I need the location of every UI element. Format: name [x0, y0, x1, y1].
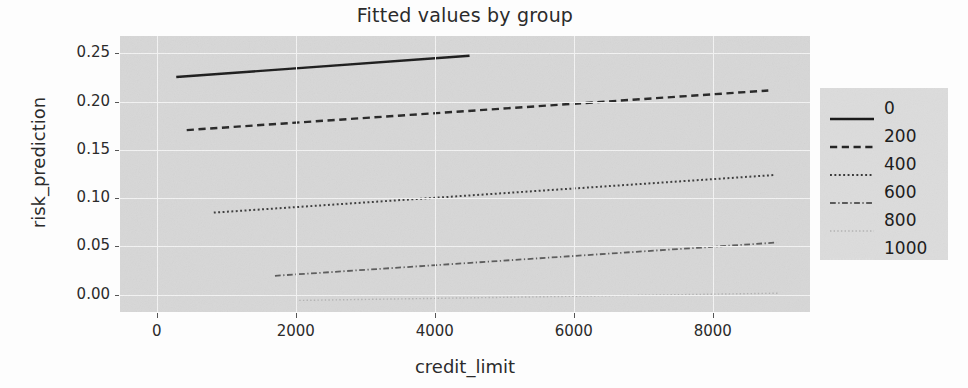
gridline-vertical	[157, 36, 158, 312]
legend-item-600[interactable]: 600	[820, 178, 948, 206]
gridline-vertical	[296, 36, 297, 312]
legend-item-800[interactable]: 800	[820, 206, 948, 234]
y-tick-mark	[115, 246, 119, 247]
y-tick-label: 0.25	[77, 43, 110, 61]
series-line-0	[176, 56, 469, 77]
legend-item-1000[interactable]: 1000	[820, 234, 948, 262]
gridline-horizontal	[120, 150, 810, 151]
legend-label-200: 200	[884, 126, 916, 146]
y-tick-mark	[115, 102, 119, 103]
gridline-vertical	[435, 36, 436, 312]
x-tick-mark	[157, 313, 158, 318]
plot-canvas	[120, 36, 810, 312]
legend-line-sample-800	[830, 219, 874, 222]
gridline-vertical	[713, 36, 714, 312]
legend-item-400[interactable]: 400	[820, 150, 948, 178]
legend-label-600: 600	[884, 182, 916, 202]
gridline-horizontal	[120, 53, 810, 54]
x-tick-label: 6000	[524, 322, 624, 340]
legend: 02004006008001000	[820, 88, 948, 260]
legend-line-sample-400	[830, 163, 874, 166]
x-tick-mark	[574, 313, 575, 318]
x-axis-label: credit_limit	[120, 356, 810, 377]
y-tick-label: 0.05	[77, 236, 110, 254]
y-tick-label: 0.15	[77, 140, 110, 158]
gridline-horizontal	[120, 246, 810, 247]
x-tick-label: 0	[107, 322, 207, 340]
legend-label-400: 400	[884, 154, 916, 174]
legend-line-sample-1000	[830, 247, 874, 250]
y-tick-mark	[115, 295, 119, 296]
gridline-horizontal	[120, 102, 810, 103]
legend-label-800: 800	[884, 210, 916, 230]
x-tick-mark	[296, 313, 297, 318]
y-tick-mark	[115, 198, 119, 199]
chart-title: Fitted values by group	[120, 4, 810, 26]
chart-figure: Fitted values by group 0.000.050.100.150…	[0, 0, 968, 388]
y-tick-label: 0.10	[77, 188, 110, 206]
legend-line-sample-600	[830, 191, 874, 194]
x-tick-label: 8000	[663, 322, 763, 340]
y-tick-mark	[115, 53, 119, 54]
legend-item-0[interactable]: 0	[820, 94, 948, 122]
gridline-vertical	[574, 36, 575, 312]
y-tick-label: 0.20	[77, 92, 110, 110]
legend-label-1000: 1000	[884, 238, 927, 258]
gridline-horizontal	[120, 295, 810, 296]
legend-item-200[interactable]: 200	[820, 122, 948, 150]
series-line-600	[275, 243, 777, 276]
x-tick-mark	[713, 313, 714, 318]
y-tick-mark	[115, 150, 119, 151]
plot-area	[120, 36, 810, 312]
x-tick-label: 4000	[385, 322, 485, 340]
series-line-400	[214, 175, 775, 213]
y-axis-label: risk_prediction	[28, 33, 49, 293]
legend-line-sample-200	[830, 135, 874, 138]
legend-line-sample-0	[830, 107, 874, 110]
x-tick-label: 2000	[246, 322, 346, 340]
legend-label-0: 0	[884, 98, 895, 118]
series-line-200	[187, 91, 769, 131]
x-tick-mark	[435, 313, 436, 318]
gridline-horizontal	[120, 198, 810, 199]
y-tick-label: 0.00	[77, 285, 110, 303]
